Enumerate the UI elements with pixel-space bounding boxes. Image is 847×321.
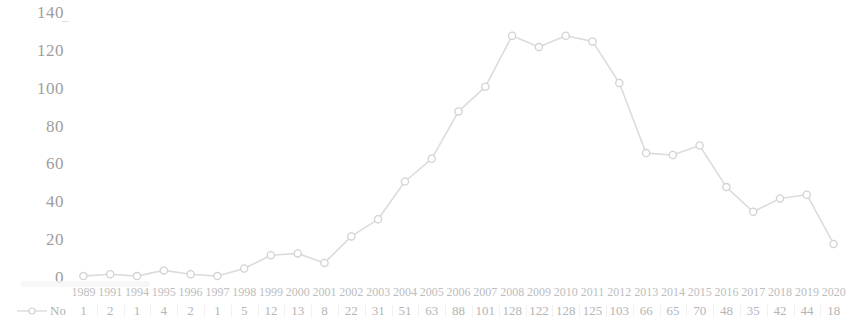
value-cell: 128: [499, 303, 526, 319]
year-label: 2004: [392, 285, 419, 300]
data-point-marker: [133, 273, 140, 280]
y-tick-label: 40: [46, 192, 64, 212]
data-point-marker: [723, 184, 730, 191]
value-cell: 1: [204, 303, 231, 319]
value-cell: 42: [767, 303, 794, 319]
data-point-marker: [187, 271, 194, 278]
value-cell: 2: [177, 303, 204, 319]
y-tick-label: 60: [46, 154, 64, 174]
legend-entry: No: [0, 303, 70, 319]
year-label: 2018: [767, 285, 794, 300]
value-cell: 1: [124, 303, 151, 319]
data-point-marker: [294, 250, 301, 257]
data-point-marker: [321, 259, 328, 266]
data-point-marker: [267, 252, 274, 259]
y-tick-label: 20: [46, 230, 64, 250]
year-label: 2011: [579, 285, 606, 300]
y-tick-label: 80: [46, 117, 64, 137]
value-cell: 2: [97, 303, 124, 319]
data-point-marker: [401, 178, 408, 185]
year-label-cells: 1989199119941995199619971998199920002001…: [70, 285, 847, 300]
value-cell: 18: [820, 303, 847, 319]
series-polyline: [83, 36, 833, 276]
value-cell: 48: [713, 303, 740, 319]
data-point-marker: [509, 32, 516, 39]
year-label: 2014: [660, 285, 687, 300]
year-label: 2012: [606, 285, 633, 300]
data-point-marker: [803, 191, 810, 198]
year-label: 1996: [177, 285, 204, 300]
value-cell: 35: [740, 303, 767, 319]
year-label: 2016: [713, 285, 740, 300]
y-axis: 020406080100120140: [0, 0, 70, 290]
year-label: 1997: [204, 285, 231, 300]
value-cell: 51: [392, 303, 419, 319]
data-table: 1989199119941995199619971998199920002001…: [0, 284, 847, 321]
year-label: 2009: [526, 285, 553, 300]
value-cell: 44: [794, 303, 821, 319]
data-point-marker: [589, 38, 596, 45]
value-cell: 4: [150, 303, 177, 319]
value-cell: 22: [338, 303, 365, 319]
year-label: 1994: [124, 285, 151, 300]
value-cell: 65: [660, 303, 687, 319]
value-cell: 1: [70, 303, 97, 319]
value-cell: 122: [526, 303, 553, 319]
value-cell: 125: [579, 303, 606, 319]
data-point-marker: [107, 271, 114, 278]
data-point-marker: [669, 151, 676, 158]
value-cell: 88: [445, 303, 472, 319]
series-line-no: [70, 0, 847, 284]
y-tick-label: 120: [37, 41, 64, 61]
value-cell: 13: [284, 303, 311, 319]
table-row-years: 1989199119941995199619971998199920002001…: [0, 284, 847, 300]
legend-label: No: [50, 303, 66, 319]
data-point-marker: [455, 108, 462, 115]
data-point-marker: [428, 155, 435, 162]
data-point-marker: [830, 240, 837, 247]
data-point-marker: [643, 150, 650, 157]
data-point-marker: [535, 44, 542, 51]
value-cell: 5: [231, 303, 258, 319]
year-label: 2020: [820, 285, 847, 300]
y-tick-label: 140: [37, 3, 64, 23]
data-point-marker: [241, 265, 248, 272]
y-tick-mark: [62, 21, 69, 22]
value-cell: 63: [418, 303, 445, 319]
year-label: 2002: [338, 285, 365, 300]
year-label: 2005: [418, 285, 445, 300]
value-cell: 128: [552, 303, 579, 319]
year-label: 2007: [472, 285, 499, 300]
year-label: 2000: [284, 285, 311, 300]
plot-area: [70, 0, 847, 284]
legend-line-marker-icon: [17, 306, 47, 316]
value-cell: 31: [365, 303, 392, 319]
year-label: 2019: [794, 285, 821, 300]
year-label: 1989: [70, 285, 97, 300]
data-point-marker: [348, 233, 355, 240]
year-label: 2008: [499, 285, 526, 300]
year-label: 2017: [740, 285, 767, 300]
value-cell: 66: [633, 303, 660, 319]
year-label: 2013: [633, 285, 660, 300]
value-cells: 1214215121382231516388101128122128125103…: [70, 303, 847, 319]
value-cell: 101: [472, 303, 499, 319]
data-point-marker: [750, 208, 757, 215]
data-point-marker: [80, 273, 87, 280]
data-point-marker: [214, 273, 221, 280]
data-point-marker: [562, 32, 569, 39]
year-label: 1995: [150, 285, 177, 300]
line-chart: 020406080100120140 198919911994199519961…: [0, 0, 847, 321]
data-point-marker: [375, 216, 382, 223]
year-label: 1991: [97, 285, 124, 300]
y-tick-label: 100: [37, 79, 64, 99]
value-cell: 103: [606, 303, 633, 319]
year-label: 2015: [686, 285, 713, 300]
year-label: 1998: [231, 285, 258, 300]
year-label: 2010: [552, 285, 579, 300]
year-label: 2003: [365, 285, 392, 300]
data-point-marker: [776, 195, 783, 202]
value-cell: 12: [258, 303, 285, 319]
value-cell: 8: [311, 303, 338, 319]
year-label: 1999: [258, 285, 285, 300]
